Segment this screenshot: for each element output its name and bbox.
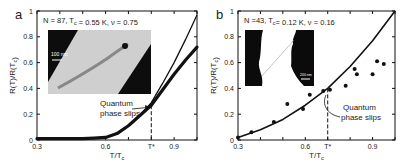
x-tick-label: 0.6 (300, 143, 310, 150)
callout-line-1: Quantum (100, 99, 133, 108)
data-point (321, 89, 325, 93)
data-point (272, 120, 276, 124)
x-tick-label: T* (148, 143, 155, 150)
x-tick-label: 0.9 (169, 143, 179, 150)
x-axis-label: T/Tc (309, 151, 324, 161)
y-axis-label: R(T)/R(Tc) (8, 57, 19, 94)
figure: a100 nm00.20.40.60.810.30.6T*0.9T/TcR(T)… (0, 0, 410, 167)
data-point (382, 62, 386, 66)
scale-bar-label: 100 nm (51, 51, 68, 57)
x-tick-label: T* (324, 143, 331, 150)
panel-label: a (15, 7, 23, 22)
data-point (328, 88, 332, 92)
y-axis-label: R(T)/R(Tc) (209, 57, 220, 94)
callout-arrow (325, 95, 340, 117)
inset-micrograph: 100 nm (48, 30, 151, 94)
scale-bar-label: 200 nm (300, 73, 312, 77)
y-tick-label: 0.6 (23, 59, 33, 66)
y-tick-label: 0.4 (23, 85, 33, 92)
x-tick-label: 0.3 (32, 143, 42, 150)
data-point (285, 102, 289, 106)
callout-line-2: phase slips (100, 109, 140, 118)
y-tick-label: 0.6 (224, 59, 234, 66)
x-tick-label: 0.9 (368, 143, 378, 150)
y-tick-label: 0.4 (224, 85, 234, 92)
y-tick-label: 0.2 (23, 111, 33, 118)
inset-micrograph: 200 nm (245, 30, 333, 86)
callout-quantum-phase-slips: Quantumphase slips (325, 95, 382, 122)
y-tick-label: 0.8 (224, 33, 234, 40)
x-tick-label: 0.3 (233, 143, 243, 150)
y-tick-label: 0.8 (23, 33, 33, 40)
panel-annotation: N =43, Tc= 0.12 K, ν = 0.16 (244, 16, 335, 27)
inset-particle (122, 43, 128, 49)
y-tick-label: 0.2 (224, 111, 234, 118)
callout-line-2: phase slips (341, 113, 381, 122)
data-point (308, 93, 312, 97)
panel-annotation: N = 87, Tc = 0.55 K, ν = 0.75 (43, 16, 138, 27)
panel-a: a100 nm00.20.40.60.810.30.6T*0.9T/TcR(T)… (8, 7, 197, 161)
y-tick-label: 1 (230, 8, 234, 15)
x-tick-label: 0.6 (101, 143, 111, 150)
data-point (375, 59, 379, 63)
callout-line-1: Quantum (343, 103, 376, 112)
panel-b: b200 nm00.20.40.60.810.30.6T*0.9T/TcR(T)… (209, 7, 395, 161)
x-axis-label: T/Tc (110, 151, 125, 161)
data-point (249, 130, 253, 134)
data-point (236, 135, 240, 139)
data-point (301, 107, 305, 111)
y-tick-label: 1 (29, 8, 33, 15)
data-point (371, 72, 375, 76)
data-point (344, 84, 348, 88)
data-point (353, 67, 357, 71)
data-point (355, 72, 359, 76)
panel-label: b (216, 7, 223, 22)
